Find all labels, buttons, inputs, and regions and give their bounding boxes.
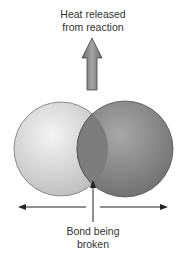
bond-label-line2: broken: [45, 238, 141, 251]
bond-label-line1: Bond being: [45, 225, 141, 238]
heat-label-line2: from reaction: [40, 21, 146, 34]
bond-diagram: [0, 0, 182, 258]
left-arrow-icon: [18, 204, 86, 210]
heat-label-line1: Heat released: [40, 8, 146, 21]
heat-label: Heat released from reaction: [40, 8, 146, 34]
heat-arrow-icon: [82, 38, 102, 90]
right-arrow-icon: [100, 204, 168, 210]
bond-label: Bond being broken: [45, 225, 141, 251]
pointer-arrow-icon: [90, 180, 96, 222]
